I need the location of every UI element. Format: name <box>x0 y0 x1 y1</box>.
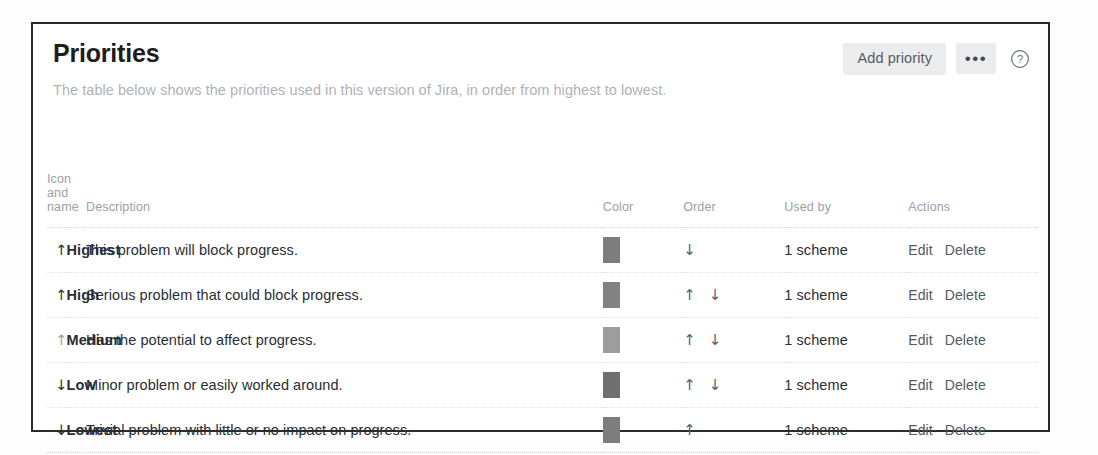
move-up-icon[interactable]: ↑ <box>683 288 696 303</box>
column-header-description: Description <box>86 172 603 228</box>
edit-link[interactable]: Edit <box>908 287 933 303</box>
priority-used-by: 1 scheme <box>784 273 908 318</box>
delete-link[interactable]: Delete <box>945 287 986 303</box>
edit-link[interactable]: Edit <box>908 422 933 438</box>
edit-link[interactable]: Edit <box>908 332 933 348</box>
page-root: Priorities The table below shows the pri… <box>0 0 1098 455</box>
color-swatch <box>603 372 620 398</box>
priority-used-by: 1 scheme <box>784 363 908 408</box>
priority-name: Highest <box>67 228 87 273</box>
table-row: ↓LowMinor problem or easily worked aroun… <box>47 363 1038 408</box>
priority-actions-cell: EditDelete <box>908 318 1038 363</box>
priority-name: Medium <box>67 318 87 363</box>
priority-actions-cell: EditDelete <box>908 363 1038 408</box>
priority-description: This problem will block progress. <box>86 228 603 273</box>
move-down-icon[interactable]: ↓ <box>683 243 696 258</box>
priority-name: High <box>67 273 87 318</box>
priority-direction-icon: ↑ <box>47 318 67 363</box>
priority-description: Serious problem that could block progres… <box>86 273 603 318</box>
arrow-up-icon: ↑ <box>55 243 67 258</box>
more-options-button[interactable]: ••• <box>956 43 996 74</box>
priority-direction-icon: ↓ <box>47 408 67 453</box>
column-header-used-by: Used by <box>784 172 908 228</box>
priority-name: Lowest <box>67 408 87 453</box>
priority-direction-icon: ↑ <box>47 228 67 273</box>
table-row: ↑MediumHas the potential to affect progr… <box>47 318 1038 363</box>
priority-order-cell: ↑↓ <box>683 363 784 408</box>
priority-actions-cell: EditDelete <box>908 408 1038 453</box>
arrow-up-icon: ↑ <box>55 288 67 303</box>
column-header-icon-and-name: Icon and name <box>47 172 86 228</box>
column-header-order: Order <box>683 172 784 228</box>
column-header-color: Color <box>603 172 683 228</box>
priority-color-cell <box>603 228 683 273</box>
arrow-down-icon: ↓ <box>55 423 67 438</box>
priorities-table: Icon and name Description Color Order Us… <box>47 172 1038 453</box>
priority-color-cell <box>603 363 683 408</box>
page-title: Priorities <box>53 41 159 66</box>
move-up-icon[interactable]: ↑ <box>683 333 696 348</box>
page-description: The table below shows the priorities use… <box>53 81 666 100</box>
svg-text:?: ? <box>1017 53 1023 65</box>
color-swatch <box>603 327 620 353</box>
header-actions: Add priority ••• ? <box>843 43 1032 75</box>
priority-actions-cell: EditDelete <box>908 273 1038 318</box>
priority-actions-cell: EditDelete <box>908 228 1038 273</box>
priorities-card: Priorities The table below shows the pri… <box>31 22 1050 432</box>
color-swatch <box>603 417 620 443</box>
priority-order-cell: ↑ <box>683 408 784 453</box>
arrow-up-icon: ↑ <box>55 333 67 348</box>
column-header-actions: Actions <box>908 172 1038 228</box>
delete-link[interactable]: Delete <box>945 242 986 258</box>
color-swatch <box>603 282 620 308</box>
priority-color-cell <box>603 273 683 318</box>
table-row: ↑HighSerious problem that could block pr… <box>47 273 1038 318</box>
priority-color-cell <box>603 318 683 363</box>
edit-link[interactable]: Edit <box>908 242 933 258</box>
delete-link[interactable]: Delete <box>945 377 986 393</box>
table-row: ↓LowestTrivial problem with little or no… <box>47 408 1038 453</box>
priority-description: Minor problem or easily worked around. <box>86 363 603 408</box>
priorities-table-body: ↑HighestThis problem will block progress… <box>47 228 1038 453</box>
priority-description: Has the potential to affect progress. <box>86 318 603 363</box>
arrow-down-icon: ↓ <box>55 378 67 393</box>
move-down-icon[interactable]: ↓ <box>709 378 722 393</box>
add-priority-button[interactable]: Add priority <box>843 43 946 75</box>
priority-order-cell: ↓ <box>683 228 784 273</box>
priority-description: Trivial problem with little or no impact… <box>86 408 603 453</box>
priority-direction-icon: ↑ <box>47 273 67 318</box>
move-down-icon[interactable]: ↓ <box>709 288 722 303</box>
priority-used-by: 1 scheme <box>784 228 908 273</box>
edit-link[interactable]: Edit <box>908 377 933 393</box>
color-swatch <box>603 237 620 263</box>
move-down-icon[interactable]: ↓ <box>709 333 722 348</box>
move-up-icon[interactable]: ↑ <box>683 378 696 393</box>
table-header-row: Icon and name Description Color Order Us… <box>47 172 1038 228</box>
priority-name: Low <box>67 363 87 408</box>
priority-direction-icon: ↓ <box>47 363 67 408</box>
help-icon[interactable]: ? <box>1008 47 1032 71</box>
delete-link[interactable]: Delete <box>945 422 986 438</box>
card-header: Priorities The table below shows the pri… <box>47 24 1034 96</box>
table-row: ↑HighestThis problem will block progress… <box>47 228 1038 273</box>
priority-used-by: 1 scheme <box>784 318 908 363</box>
priority-color-cell <box>603 408 683 453</box>
priority-order-cell: ↑↓ <box>683 273 784 318</box>
priority-used-by: 1 scheme <box>784 408 908 453</box>
priority-order-cell: ↑↓ <box>683 318 784 363</box>
move-up-icon[interactable]: ↑ <box>683 423 696 438</box>
delete-link[interactable]: Delete <box>945 332 986 348</box>
